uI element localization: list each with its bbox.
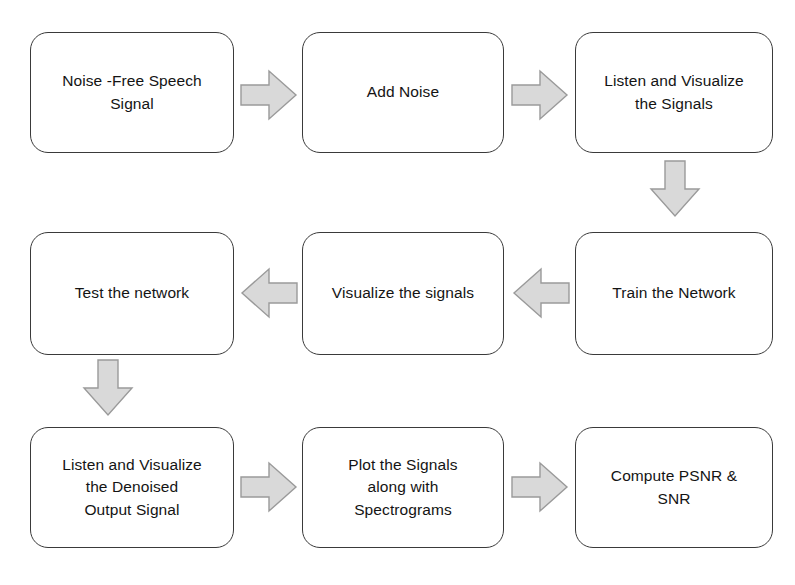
flow-node-label: Train the Network (602, 282, 745, 304)
flow-node-label: Add Noise (357, 81, 449, 103)
arrow-right-icon (512, 71, 567, 119)
flow-node-label: Plot the Signals along with Spectrograms (338, 454, 467, 521)
flow-node-label: Noise -Free Speech Signal (52, 70, 212, 115)
flow-node-label: Visualize the signals (322, 282, 484, 304)
arrow-right-icon (512, 463, 567, 511)
arrow-left-icon (514, 269, 569, 317)
flow-node-label: Compute PSNR & SNR (601, 465, 747, 510)
flow-node-label: Test the network (65, 282, 199, 304)
flow-node-label: Listen and Visualize the Denoised Output… (52, 454, 212, 521)
arrow-down-icon (651, 161, 699, 216)
flow-node-noise-free-speech-signal[interactable]: Noise -Free Speech Signal (30, 32, 234, 153)
arrow-right-icon (241, 463, 296, 511)
flow-node-listen-and-visualize-the-signals[interactable]: Listen and Visualize the Signals (575, 32, 773, 153)
arrow-down-icon (84, 360, 132, 415)
flow-node-train-the-network[interactable]: Train the Network (575, 232, 773, 355)
flow-node-listen-and-visualize-the-denoised-output-signal[interactable]: Listen and Visualize the Denoised Output… (30, 427, 234, 548)
flow-node-plot-the-signals-along-with-spectrograms[interactable]: Plot the Signals along with Spectrograms (302, 427, 504, 548)
flow-node-compute-psnr-and-snr[interactable]: Compute PSNR & SNR (575, 427, 773, 548)
flow-node-add-noise[interactable]: Add Noise (302, 32, 504, 153)
arrow-right-icon (241, 71, 296, 119)
flowchart-canvas: Noise -Free Speech SignalAdd NoiseListen… (0, 0, 795, 585)
flow-node-test-the-network[interactable]: Test the network (30, 232, 234, 355)
flow-node-label: Listen and Visualize the Signals (594, 70, 754, 115)
flow-node-visualize-the-signals[interactable]: Visualize the signals (302, 232, 504, 355)
arrow-left-icon (242, 269, 297, 317)
